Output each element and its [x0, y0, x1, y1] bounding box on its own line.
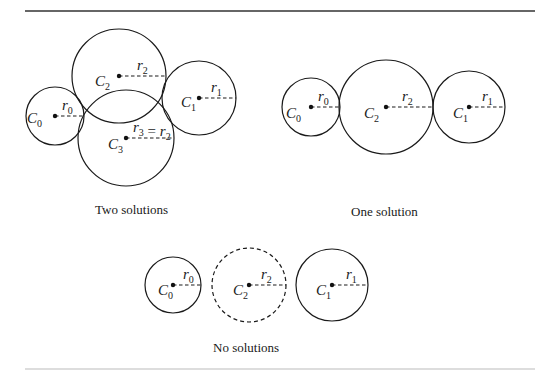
circle-c1: C1r1	[433, 71, 505, 143]
panel-caption: Two solutions	[95, 202, 168, 217]
circle-c2: C2r2	[212, 248, 286, 322]
panel-one-solution: C0r0C2r2C1r1One solution	[282, 60, 505, 219]
center-label: C1	[181, 94, 196, 113]
circle-c3: C3r3 = r2	[78, 90, 174, 186]
radius-label: r1	[346, 266, 357, 285]
panel-caption: One solution	[351, 204, 418, 219]
radius-label: r0	[183, 266, 194, 285]
circle-c2: C2r2	[339, 60, 433, 154]
center-label: C0	[158, 282, 173, 301]
circle-c2: C2r2	[72, 29, 166, 123]
radius-label: r2	[261, 266, 272, 285]
center-point-icon	[384, 105, 388, 109]
center-label: C2	[364, 105, 379, 124]
radius-label: r1	[211, 79, 222, 98]
circle-tangency-diagram: C0r0C2r2C1r1C3r3 = r2Two solutionsC0r0C2…	[0, 0, 535, 370]
center-label: C1	[316, 282, 331, 301]
center-label: C0	[27, 110, 42, 129]
center-label: C2	[95, 73, 110, 92]
center-point-icon	[197, 96, 201, 100]
center-point-icon	[117, 74, 121, 78]
radius-label: r2	[137, 57, 148, 76]
center-point-icon	[247, 283, 251, 287]
circle-c1: C1r1	[296, 249, 368, 321]
center-label: C3	[108, 136, 123, 155]
circle-c0: C0r0	[145, 257, 201, 313]
center-point-icon	[330, 283, 334, 287]
circle-c0: C0r0	[26, 87, 84, 145]
radius-label: r0	[318, 88, 329, 107]
radius-label: r2	[402, 88, 413, 107]
panel-two-solutions: C0r0C2r2C1r1C3r3 = r2Two solutions	[26, 29, 236, 217]
center-point-icon	[53, 114, 57, 118]
panel-no-solutions: C0r0C2r2C1r1No solutions	[145, 248, 368, 355]
center-label: C1	[453, 105, 468, 124]
center-point-icon	[124, 136, 128, 140]
center-point-icon	[467, 105, 471, 109]
center-point-icon	[309, 105, 313, 109]
radius-label: r0	[62, 97, 73, 116]
radius-label: r1	[482, 88, 493, 107]
circle-c0: C0r0	[282, 78, 340, 136]
center-label: C0	[286, 105, 301, 124]
center-label: C2	[233, 282, 248, 301]
panel-caption: No solutions	[213, 340, 279, 355]
center-point-icon	[171, 283, 175, 287]
circle-c1: C1r1	[162, 61, 236, 135]
